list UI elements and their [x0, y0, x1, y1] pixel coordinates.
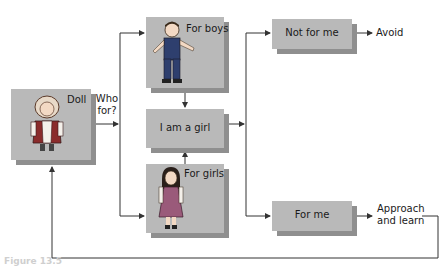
for-me-label: For me — [272, 209, 352, 220]
who-for-annotation: Who for? — [95, 93, 119, 117]
for-girls-label: For girls — [184, 168, 224, 179]
for-girls-node: For girls — [146, 164, 224, 233]
approach-and-learn-outcome: Approach and learn — [377, 203, 425, 227]
not-for-me-node: Not for me — [272, 19, 352, 49]
approach-line2: and learn — [377, 215, 425, 227]
for-boys-node: For boys — [146, 17, 224, 88]
not-for-me-label: Not for me — [272, 27, 352, 38]
i-am-a-girl-node: I am a girl — [146, 109, 224, 148]
doll-icon — [29, 95, 65, 155]
figure-caption: Figure 13.5 — [4, 256, 62, 266]
who-for-line2: for? — [95, 105, 119, 117]
avoid-outcome: Avoid — [376, 27, 403, 39]
for-boys-label: For boys — [186, 23, 228, 34]
i-am-a-girl-label: I am a girl — [146, 122, 224, 133]
who-for-line1: Who — [95, 93, 119, 105]
for-me-node: For me — [272, 201, 352, 231]
girl-icon — [156, 167, 186, 231]
doll-node: Doll — [11, 89, 91, 160]
doll-label: Doll — [67, 94, 86, 105]
approach-line1: Approach — [377, 203, 425, 215]
